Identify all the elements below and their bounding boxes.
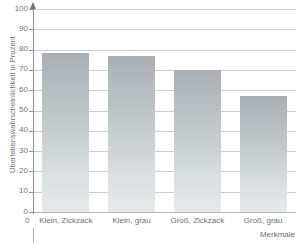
x-tick-label: Klein, grau: [99, 216, 165, 225]
x-axis-origin-label: 0: [25, 216, 29, 225]
gridline: [33, 9, 296, 10]
plot-area: [33, 9, 296, 212]
y-tick-mark: [29, 9, 33, 10]
y-axis-line: [33, 7, 34, 214]
bar-chart: Überlebenswahrscheinlichkeit in Prozent …: [0, 0, 300, 246]
y-tick-label: 70: [0, 65, 28, 73]
y-tick-mark: [29, 151, 33, 152]
bar: [240, 96, 287, 212]
y-tick-mark: [29, 70, 33, 71]
y-axis-arrow-icon: [30, 2, 36, 9]
y-tick-label: 20: [0, 167, 28, 175]
x-tick-label: Groß, Zickzack: [165, 216, 231, 225]
y-tick-mark: [29, 29, 33, 30]
y-tick-label: 10: [0, 187, 28, 195]
y-tick-mark: [29, 192, 33, 193]
gridline: [33, 29, 296, 30]
x-tick-label: Groß, grau: [230, 216, 296, 225]
y-tick-label: 60: [0, 86, 28, 94]
y-tick-label: 100: [0, 5, 28, 13]
x-axis-title: Merkmale: [260, 230, 295, 239]
bar: [42, 53, 89, 212]
bar: [108, 56, 155, 212]
y-tick-mark: [29, 90, 33, 91]
x-tick-label: Klein, Zickzack: [33, 216, 99, 225]
y-tick-mark: [29, 50, 33, 51]
bar: [174, 70, 221, 212]
y-tick-mark: [29, 131, 33, 132]
y-axis-stub: [33, 228, 34, 243]
y-tick-label: 40: [0, 126, 28, 134]
y-tick-label: 80: [0, 45, 28, 53]
y-tick-label: 30: [0, 147, 28, 155]
gridline: [33, 212, 296, 213]
gridline: [33, 50, 296, 51]
y-tick-mark: [29, 212, 33, 213]
y-tick-label: 0: [0, 208, 28, 216]
y-tick-label: 90: [0, 25, 28, 33]
y-tick-mark: [29, 111, 33, 112]
y-tick-label: 50: [0, 106, 28, 114]
y-tick-mark: [29, 171, 33, 172]
